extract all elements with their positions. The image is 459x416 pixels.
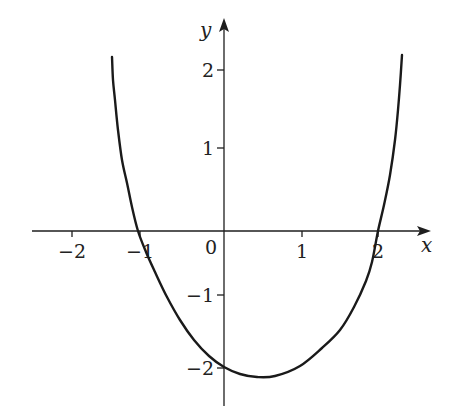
x-ticks: −2−112 <box>58 231 384 262</box>
y-tick-label: −1 <box>186 284 214 306</box>
axes <box>32 18 431 406</box>
y-axis-label: y <box>199 18 212 42</box>
x-tick-label: 1 <box>296 240 308 262</box>
y-tick-label: −2 <box>186 357 214 379</box>
x-axis-label: x <box>421 233 432 257</box>
y-tick-label: 2 <box>202 59 214 81</box>
function-curve <box>112 55 402 377</box>
function-plot: −2−112 21−1−2 x y 0 <box>0 0 459 416</box>
y-ticks: 21−1−2 <box>186 59 224 379</box>
y-tick-label: 1 <box>202 137 214 159</box>
x-tick-label: −2 <box>58 240 86 262</box>
origin-label: 0 <box>205 236 217 258</box>
